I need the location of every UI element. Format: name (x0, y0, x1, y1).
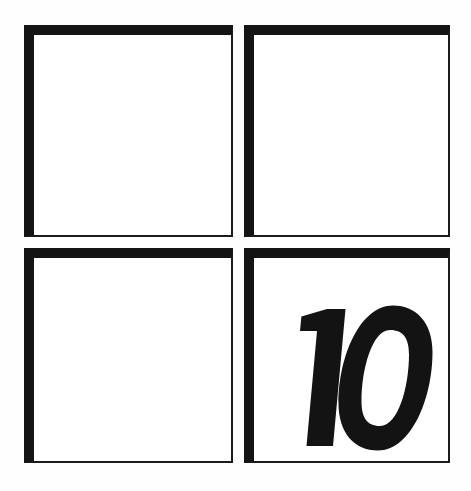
grid-cell-bottom-right[interactable] (244, 248, 450, 463)
grid-cell-bottom-left[interactable] (24, 248, 233, 463)
grid-cell-top-right[interactable] (244, 25, 450, 237)
grid-cell-top-left[interactable] (24, 25, 233, 237)
numeral-ten-icon (298, 303, 438, 453)
numeral-ten (298, 303, 438, 453)
page-canvas (0, 0, 471, 491)
four-box-grid (24, 25, 450, 463)
